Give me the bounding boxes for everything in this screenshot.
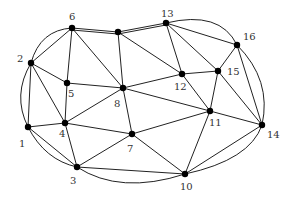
edge-10-14 [185,125,262,174]
node-14 [259,122,265,128]
edge-curve-3-10 [77,167,185,183]
graph-edges [28,23,262,174]
edge-16-14 [237,45,262,125]
node-label-4: 4 [59,128,65,139]
edge-8-7 [123,88,132,134]
edge-6-u [72,28,118,32]
edge-13-16 [166,23,237,45]
edge-curve-u-13 [118,25,166,34]
node-4 [62,120,68,126]
edge-15-14 [218,71,262,125]
node-u [115,29,121,35]
edge-6-8 [72,28,123,88]
node-8 [120,85,126,91]
edge-5-4 [65,83,67,123]
node-label-2: 2 [17,53,23,64]
edge-8-5 [67,83,123,88]
edge-2-1 [28,63,31,127]
edge-u-13 [118,23,166,32]
edge-4-1 [28,123,65,127]
edge-3-7 [77,134,132,167]
node-label-5: 5 [68,88,74,99]
node-16 [234,42,240,48]
node-label-7: 7 [127,143,133,154]
planar-graph-diagram: 1234567810111213141516 [0,0,291,201]
node-5 [64,80,70,86]
node-1 [25,124,31,130]
node-label-15: 15 [227,66,240,77]
node-15 [215,68,221,74]
edge-6-5 [67,28,72,83]
node-label-13: 13 [161,8,174,19]
node-11 [207,108,213,114]
edge-3-10 [77,167,185,174]
edge-7-11 [132,111,210,134]
edge-u-12 [118,32,182,74]
node-label-10: 10 [180,181,193,192]
node-label-16: 16 [243,31,256,42]
graph-node-labels: 1234567810111213141516 [17,8,280,192]
edge-curve-6-u [72,30,118,34]
edge-15-11 [210,71,218,111]
edge-7-10 [132,134,185,174]
edge-11-10 [185,111,210,174]
node-label-3: 3 [70,175,76,186]
edge-12-11 [182,74,210,111]
node-label-14: 14 [267,129,280,140]
edge-15-12 [182,71,218,74]
node-12 [179,71,185,77]
node-label-11: 11 [209,117,222,128]
node-label-8: 8 [114,98,120,109]
node-label-6: 6 [69,11,75,22]
node-3 [74,164,80,170]
edge-u-8 [118,32,123,88]
node-label-1: 1 [19,138,25,149]
edge-4-3 [65,123,77,167]
node-label-12: 12 [174,81,187,92]
node-2 [28,60,34,66]
graph-curved-edges [21,19,265,183]
edge-4-7 [65,123,132,134]
node-6 [69,25,75,31]
node-10 [182,171,188,177]
edge-1-3 [28,127,77,167]
node-13 [163,20,169,26]
edge-8-11 [123,88,210,111]
node-7 [129,131,135,137]
